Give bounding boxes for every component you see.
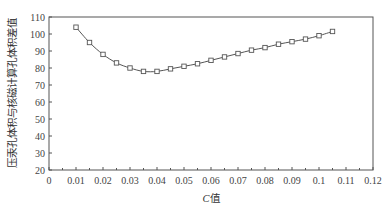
- data-point-marker: [317, 34, 321, 38]
- y-tick-label: 40: [35, 131, 45, 142]
- x-tick-label: 0.1: [313, 175, 326, 186]
- data-point-marker: [168, 67, 172, 71]
- data-point-marker: [182, 64, 186, 68]
- x-tick-label: 0.08: [256, 175, 274, 186]
- y-tick-label: 70: [35, 80, 45, 91]
- line-chart: 2030405060708090100110 00.010.020.030.04…: [0, 0, 390, 210]
- x-axis-title: C值: [202, 192, 220, 204]
- y-tick-label: 50: [35, 114, 45, 125]
- data-point-marker: [209, 58, 213, 62]
- data-series: [74, 25, 335, 74]
- y-tick-label: 30: [35, 148, 45, 159]
- plot-border: [49, 17, 373, 170]
- x-tick-label: 0.11: [337, 175, 354, 186]
- x-tick-label: 0: [47, 175, 52, 186]
- data-point-marker: [155, 69, 159, 73]
- plot-frame: [49, 17, 373, 170]
- y-tick-label: 110: [30, 12, 45, 23]
- x-tick-label: 0.03: [121, 175, 139, 186]
- data-point-marker: [330, 29, 334, 33]
- data-point-marker: [101, 52, 105, 56]
- x-tick-label: 0.09: [283, 175, 301, 186]
- data-point-marker: [128, 66, 132, 70]
- x-tick-label: 0.07: [229, 175, 247, 186]
- y-tick-label: 80: [35, 63, 45, 74]
- y-tick-label: 90: [35, 46, 45, 57]
- x-tick-label: 0.06: [202, 175, 220, 186]
- x-tick-label: 0.12: [364, 175, 382, 186]
- y-tick-label: 20: [35, 165, 45, 176]
- x-tick-label: 0.04: [148, 175, 166, 186]
- x-tick-label: 0.05: [175, 175, 193, 186]
- data-point-marker: [249, 48, 253, 52]
- data-point-marker: [222, 55, 226, 59]
- data-point-marker: [236, 51, 240, 55]
- data-point-marker: [263, 45, 267, 49]
- data-point-marker: [303, 37, 307, 41]
- y-tick-label: 60: [35, 97, 45, 108]
- data-point-marker: [290, 39, 294, 43]
- data-point-marker: [114, 61, 118, 65]
- data-point-marker: [74, 25, 78, 29]
- data-point-marker: [141, 69, 145, 73]
- data-point-marker: [276, 42, 280, 46]
- x-tick-label: 0.01: [67, 175, 85, 186]
- y-tick-label: 100: [30, 29, 45, 40]
- data-point-marker: [195, 62, 199, 66]
- x-tick-label: 0.02: [94, 175, 112, 186]
- y-axis-title: 压汞孔体积与核磁计算孔体积差值: [6, 17, 18, 168]
- data-point-marker: [87, 40, 91, 44]
